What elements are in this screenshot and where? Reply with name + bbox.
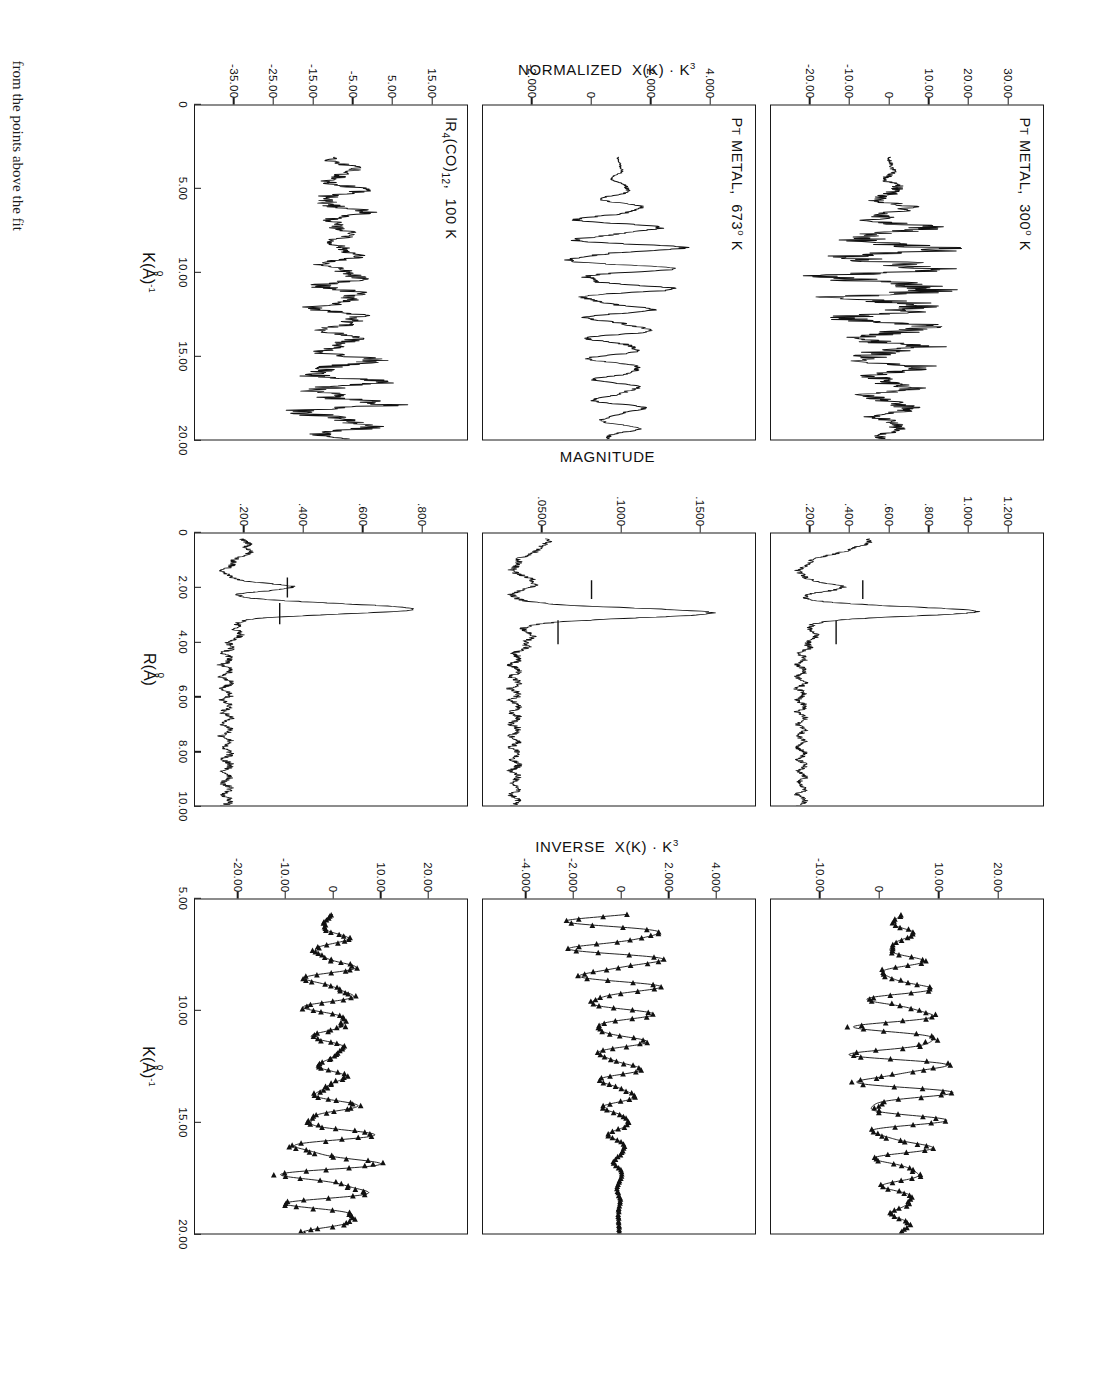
- data-point-marker: [339, 1136, 345, 1141]
- x-tick-mark: [194, 805, 201, 806]
- y-tick-label: .200: [804, 502, 816, 526]
- panel-inverse-2: [482, 898, 756, 1234]
- data-point-marker: [590, 968, 596, 973]
- y-tick-mark: [620, 891, 621, 898]
- y-tick-mark: [285, 891, 286, 898]
- data-point-marker: [910, 1121, 916, 1126]
- data-point-marker: [930, 1145, 936, 1150]
- data-point-marker: [330, 1207, 336, 1212]
- y-tick-label: -10.00: [844, 64, 856, 98]
- data-point-marker: [316, 1122, 322, 1127]
- data-point-marker: [896, 1096, 902, 1101]
- x-tick-label: 5.00: [177, 886, 189, 910]
- data-point-marker: [328, 1081, 334, 1086]
- x-tick-label: 4.00: [177, 630, 189, 654]
- data-point-marker: [620, 1071, 626, 1076]
- y-tick-mark: [531, 97, 532, 104]
- y-tick-mark: [428, 891, 429, 898]
- data-point-marker: [358, 1102, 364, 1107]
- y-tick-mark: [422, 525, 423, 532]
- x-tick-label: 20.00: [177, 1219, 189, 1249]
- data-point-marker: [618, 1098, 624, 1103]
- y-tick-mark: [1007, 525, 1008, 532]
- y-tick-mark: [233, 97, 234, 104]
- data-point-marker: [355, 1134, 361, 1139]
- data-point-marker: [845, 1024, 851, 1029]
- y-tick-label: .1000: [615, 496, 627, 526]
- data-point-marker: [594, 941, 600, 946]
- data-point-marker: [333, 1077, 339, 1082]
- y-tick-label: -35.00: [228, 64, 240, 98]
- x-tick-mark: [194, 1233, 201, 1234]
- y-tick-label: 4.000: [710, 862, 722, 892]
- data-point-marker: [873, 1047, 879, 1052]
- y-tick-mark: [879, 891, 880, 898]
- x-tick-label: 15.00: [177, 1107, 189, 1137]
- y-tick-label: 20.00: [992, 862, 1004, 892]
- data-point-marker: [923, 1038, 929, 1043]
- data-point-marker: [365, 1157, 371, 1162]
- x-tick-mark: [194, 439, 201, 440]
- data-point-marker: [891, 1083, 897, 1088]
- data-point-marker: [352, 1127, 358, 1132]
- panel-normalized-1: PT METAL, 300o K: [770, 104, 1044, 440]
- y-tick-label: 2.000: [663, 862, 675, 892]
- y-tick-mark: [380, 891, 381, 898]
- y-tick-label: 10.00: [923, 68, 935, 98]
- plot-inverse-2: [483, 899, 755, 1233]
- plot-normalized-2: [483, 105, 755, 439]
- data-point-marker: [879, 1073, 885, 1078]
- data-point-marker: [333, 1125, 339, 1130]
- data-point-marker: [917, 1007, 923, 1012]
- data-point-marker: [650, 981, 656, 986]
- x-axis-title: K(Åo)-1: [139, 104, 158, 440]
- plot-magnitude-1: [771, 533, 1043, 805]
- x-tick-label: 6.00: [177, 685, 189, 709]
- x-tick-mark: [194, 696, 201, 697]
- data-point-marker: [875, 1130, 881, 1135]
- y-tick-mark: [1007, 97, 1008, 104]
- data-point-marker: [624, 911, 630, 916]
- x-axis-title: R(Åo): [140, 532, 158, 806]
- plot-inverse-1: [771, 899, 1043, 1233]
- y-tick-mark: [541, 525, 542, 532]
- data-point-marker: [889, 975, 895, 980]
- data-point-marker: [933, 1011, 939, 1016]
- y-tick-mark: [710, 97, 711, 104]
- x-tick-label: 8.00: [177, 739, 189, 763]
- panel-magnitude-1: [770, 532, 1044, 806]
- data-point-marker: [362, 1162, 368, 1167]
- y-tick-mark: [849, 97, 850, 104]
- y-tick-label: -25.00: [268, 64, 280, 98]
- data-point-marker: [630, 1062, 636, 1067]
- data-point-marker: [271, 1171, 277, 1176]
- data-point-marker: [595, 949, 601, 954]
- y-tick-mark: [650, 97, 651, 104]
- y-tick-label: -5.00: [347, 70, 359, 98]
- x-tick-label: 5.00: [177, 176, 189, 200]
- data-point-marker: [871, 1105, 877, 1110]
- y-tick-label: .800: [416, 502, 428, 526]
- x-tick-mark: [194, 1121, 201, 1122]
- figure-page: PT METAL, 300o K PT METAL, 673o K lR4(CO…: [0, 0, 1096, 1397]
- panel-label-normalized-2: PT METAL, 673o K: [729, 117, 747, 250]
- column-normalized: PT METAL, 300o K PT METAL, 673o K lR4(CO…: [0, 58, 1096, 450]
- y-tick-mark: [716, 891, 717, 898]
- x-tick-label: 0: [177, 101, 189, 108]
- data-point-marker: [298, 1140, 304, 1145]
- y-tick-mark: [809, 525, 810, 532]
- x-axis: 5.0010.0015.0020.00: [168, 898, 194, 1234]
- x-tick-label: 2.00: [177, 575, 189, 599]
- data-point-marker: [920, 1085, 926, 1090]
- y-tick-label: .400: [297, 502, 309, 526]
- data-point-marker: [301, 1197, 307, 1202]
- data-point-marker: [901, 1190, 907, 1195]
- data-point-marker: [597, 994, 603, 999]
- y-tick-label: 5.00: [387, 74, 399, 98]
- data-point-marker: [924, 1058, 930, 1063]
- data-point-marker: [354, 965, 360, 970]
- data-point-marker: [888, 1056, 894, 1061]
- y-tick-mark: [928, 97, 929, 104]
- y-tick-mark: [928, 525, 929, 532]
- y-tick-mark: [620, 525, 621, 532]
